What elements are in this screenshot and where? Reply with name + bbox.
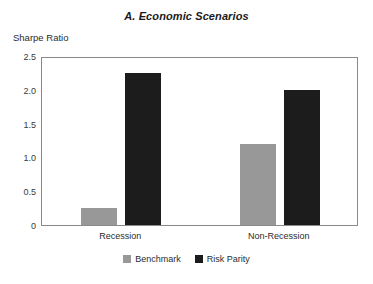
x-axis-category-label: Recession — [99, 231, 141, 241]
chart-legend: BenchmarkRisk Parity — [0, 254, 373, 264]
y-axis-label: Sharpe Ratio — [13, 32, 68, 43]
bar-risk-parity-non-recession — [284, 90, 320, 225]
chart-title: A. Economic Scenarios — [0, 10, 373, 22]
y-axis-tick-label: 1.0 — [23, 153, 36, 163]
x-axis-category-label: Non-Recession — [248, 231, 310, 241]
legend-swatch-icon — [123, 255, 131, 263]
y-axis-tick-label: 1.5 — [23, 120, 36, 130]
bar-risk-parity-recession — [125, 73, 161, 225]
bar-benchmark-non-recession — [240, 144, 276, 225]
y-axis-tick-label: 2.0 — [23, 86, 36, 96]
legend-swatch-icon — [195, 255, 203, 263]
legend-label: Benchmark — [135, 254, 181, 264]
legend-item-risk-parity[interactable]: Risk Parity — [195, 254, 250, 264]
plot-area — [41, 57, 358, 226]
y-axis-tick-label: 2.5 — [23, 52, 36, 62]
bar-benchmark-recession — [81, 208, 117, 225]
legend-item-benchmark[interactable]: Benchmark — [123, 254, 181, 264]
y-axis-tick-labels: 00.51.01.52.02.5 — [14, 57, 36, 226]
y-axis-tick-label: 0 — [31, 221, 36, 231]
plot-bars-layer — [42, 58, 357, 225]
legend-label: Risk Parity — [207, 254, 250, 264]
chart-figure: A. Economic Scenarios Sharpe Ratio 00.51… — [0, 0, 373, 284]
y-axis-tick-label: 0.5 — [23, 187, 36, 197]
